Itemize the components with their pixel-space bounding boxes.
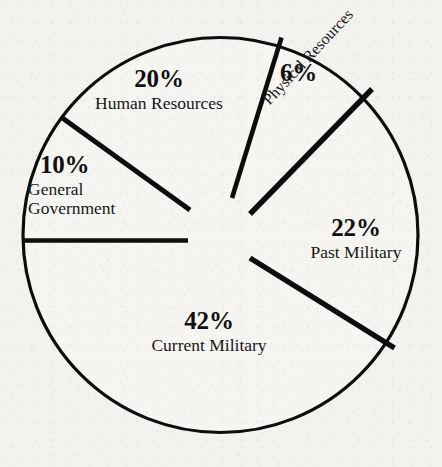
slice-percent-human-resources: 20%	[64, 66, 254, 93]
pie-chart-figure: 20% Human Resources 10% General Governme…	[0, 0, 442, 467]
slice-name-human-resources: Human Resources	[64, 94, 254, 113]
slice-label-past-military: 22% Past Military	[288, 215, 424, 261]
slice-label-current-military: 42% Current Military	[116, 308, 302, 354]
slice-name-general-government-line1: General	[22, 180, 162, 199]
slice-percent-current-military: 42%	[116, 308, 302, 335]
slice-name-past-military: Past Military	[288, 243, 424, 262]
slice-percent-general-government: 10%	[22, 152, 162, 179]
slice-name-general-government-line2: Government	[22, 199, 162, 218]
slice-label-human-resources: 20% Human Resources	[64, 66, 254, 112]
slice-percent-past-military: 22%	[288, 215, 424, 242]
slice-label-physical-resources: 6% Physical Resources	[258, 60, 378, 87]
slice-name-current-military: Current Military	[116, 336, 302, 355]
slice-label-general-government: 10% General Government	[22, 152, 162, 218]
